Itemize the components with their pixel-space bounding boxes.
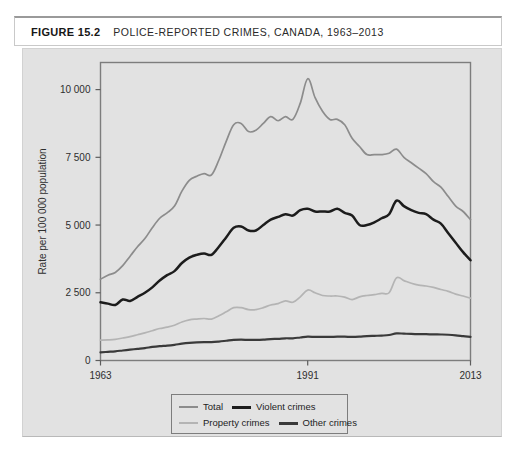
- chart-legend: Total Violent crimes Property crimes Oth…: [171, 394, 348, 434]
- legend-item-property: Property crimes: [179, 418, 270, 428]
- legend-row-2: Property crimes Other crimes: [179, 415, 340, 431]
- figure-title: POLICE-REPORTED CRIMES, CANADA, 1963–201…: [113, 26, 383, 38]
- legend-item-total: Total: [179, 402, 223, 412]
- chart-panel: [22, 48, 502, 437]
- legend-swatch-property: [179, 422, 198, 424]
- legend-item-other: Other crimes: [279, 418, 357, 428]
- legend-label-property: Property crimes: [203, 418, 270, 428]
- legend-row-1: Total Violent crimes: [179, 399, 340, 415]
- legend-item-violent: Violent crimes: [232, 402, 316, 412]
- legend-swatch-total: [179, 406, 198, 408]
- figure-root: FIGURE 15.2 POLICE-REPORTED CRIMES, CANA…: [0, 0, 518, 467]
- legend-label-other: Other crimes: [303, 418, 357, 428]
- legend-swatch-other: [279, 422, 298, 425]
- figure-number: FIGURE 15.2: [31, 26, 100, 38]
- legend-swatch-violent: [232, 406, 251, 409]
- legend-label-total: Total: [203, 402, 223, 412]
- legend-label-violent: Violent crimes: [256, 402, 316, 412]
- figure-caption-bar: FIGURE 15.2 POLICE-REPORTED CRIMES, CANA…: [14, 16, 502, 46]
